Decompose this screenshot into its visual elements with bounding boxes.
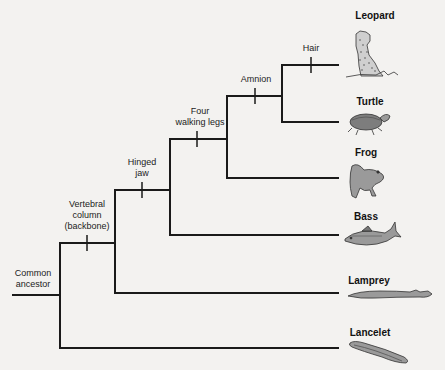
trait-label-hinged-jaw: Hinged jaw	[128, 157, 157, 179]
trait-text: Hair	[303, 43, 320, 54]
turtle-icon	[348, 114, 390, 135]
trait-text: (backbone)	[64, 221, 109, 232]
trait-text: jaw	[128, 168, 157, 179]
trait-text: Vertebral	[64, 199, 109, 210]
cladogram-tree	[0, 0, 445, 370]
taxon-label-leopard: Leopard	[355, 10, 394, 21]
leopard-icon	[346, 31, 398, 77]
frog-icon	[350, 165, 384, 198]
taxon-label-lamprey: Lamprey	[348, 275, 390, 286]
trait-label-four-walking-legs: Four walking legs	[175, 106, 224, 128]
lamprey-icon	[348, 290, 432, 298]
trait-text: Hinged	[128, 157, 157, 168]
trait-label-hair: Hair	[303, 43, 320, 54]
trait-text: column	[64, 210, 109, 221]
trait-text: Amnion	[241, 74, 272, 85]
taxon-label-bass: Bass	[354, 211, 378, 222]
trait-text: walking legs	[175, 117, 224, 128]
trait-label-vertebral-column: Vertebral column (backbone)	[64, 199, 109, 232]
trait-label-amnion: Amnion	[241, 74, 272, 85]
common-ancestor-label: Common ancestor	[15, 268, 52, 290]
root-label-line1: Common	[15, 268, 52, 279]
taxon-label-lancelet: Lancelet	[350, 327, 391, 338]
lancelet-icon	[349, 342, 407, 364]
taxon-label-turtle: Turtle	[356, 96, 383, 107]
bass-fish-icon	[345, 222, 401, 245]
taxon-label-frog: Frog	[355, 147, 377, 158]
root-label-line2: ancestor	[15, 279, 52, 290]
trait-text: Four	[175, 106, 224, 117]
